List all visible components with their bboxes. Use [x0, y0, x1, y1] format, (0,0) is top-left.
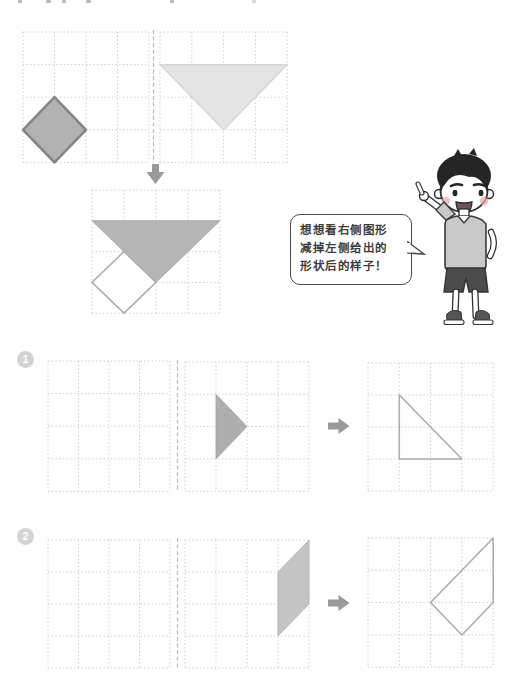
ex1-answer-grid	[368, 363, 493, 491]
speech-bubble-line: 形状后的样子！	[300, 257, 411, 275]
parallelogram-shape	[278, 540, 309, 636]
ex2-shape-grid	[185, 540, 309, 668]
ex2-empty-grid	[48, 540, 170, 668]
boy-hair-spike	[454, 149, 462, 156]
boy-shoe-sole	[444, 320, 464, 325]
speech-bubble: 想想看右侧图形 减掉左侧给出的 形状后的样子！	[290, 214, 412, 285]
boy-shoe-sole	[473, 320, 493, 325]
workbook-page: 1 2	[0, 0, 513, 686]
example-subtrahend-grid	[23, 32, 149, 162]
boy-shorts	[444, 268, 488, 292]
ex2-answer-grid	[368, 538, 493, 667]
boy-eye	[453, 190, 458, 197]
boy-shoe	[447, 310, 463, 321]
boy-shoe	[475, 310, 490, 321]
boy-shirt	[445, 216, 486, 270]
speech-bubble-tail	[408, 241, 426, 259]
small-triangle-shape	[216, 394, 247, 459]
diamond-shape	[23, 97, 86, 162]
exercise-1-badge: 1	[17, 351, 34, 368]
boy-pointing-finger	[418, 184, 422, 193]
ex1-empty-grid	[48, 361, 170, 491]
ex2-right-arrow-icon	[328, 595, 350, 611]
example-minuend-grid	[160, 32, 287, 162]
worksheet-canvas	[0, 0, 513, 686]
speech-bubble-line: 想想看右侧图形	[300, 221, 411, 239]
boy-blush	[480, 197, 488, 205]
ex1-right-arrow-icon	[328, 418, 350, 434]
speech-bubble-line: 减掉左侧给出的	[300, 239, 411, 257]
boy-eye	[479, 190, 484, 197]
example-result-grid	[92, 190, 220, 313]
exercise-2-badge: 2	[17, 528, 34, 545]
ex1-shape-grid	[185, 362, 309, 491]
boy-character-illustration	[396, 146, 508, 328]
down-arrow-icon	[147, 164, 165, 184]
